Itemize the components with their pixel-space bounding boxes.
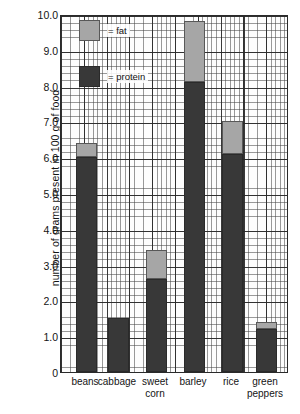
- y-axis-tick-label: 8.0: [18, 81, 58, 93]
- y-axis-tick-label: 3.0: [18, 260, 58, 272]
- legend-label-protein: = protein: [107, 70, 148, 83]
- y-axis-tick-label: 5.0: [18, 188, 58, 200]
- x-axis-tick-labels: beanscabbagesweet cornbarleyricegreen pe…: [60, 376, 288, 414]
- bar-segment-protein: [222, 154, 243, 372]
- bar-segment-fat: [146, 250, 167, 279]
- x-axis-tick-label: barley: [179, 376, 206, 388]
- bar-segment-protein: [146, 279, 167, 372]
- bar-segment-fat: [76, 143, 97, 157]
- bar-group: [146, 250, 167, 372]
- y-axis-tick-label: 9.0: [18, 45, 58, 57]
- legend-entry-fat: = fat: [79, 20, 130, 41]
- bar-group: [184, 21, 205, 372]
- bar-segment-protein: [76, 157, 97, 372]
- bar-group: [76, 143, 97, 372]
- bar-segment-protein: [256, 329, 277, 372]
- y-axis-tick-label: 7.0: [18, 116, 58, 128]
- legend-label-fat: = fat: [107, 24, 130, 37]
- y-axis-tick-label: 4.0: [18, 224, 58, 236]
- bar-group: [256, 322, 277, 372]
- y-axis-tick-label: 1.0: [18, 331, 58, 343]
- bar-chart-figure: number of grams present in 100 g of food…: [0, 0, 300, 414]
- plot-area: = fat = protein: [60, 15, 288, 373]
- x-axis-tick-label: green peppers: [247, 376, 283, 400]
- bar-group: [108, 318, 129, 372]
- bar-segment-protein: [184, 82, 205, 372]
- bar-segment-protein: [108, 318, 129, 372]
- bar-segment-fat: [256, 322, 277, 329]
- bar-segment-fat: [184, 21, 205, 82]
- bar-group: [222, 121, 243, 372]
- y-axis-tick-label: 6.0: [18, 152, 58, 164]
- y-axis-tick-label: 0: [18, 367, 58, 379]
- legend-entry-protein: = protein: [79, 66, 148, 87]
- y-axis-tick-label: 2.0: [18, 295, 58, 307]
- x-axis-tick-label: cabbage: [98, 376, 136, 388]
- bar-segment-fat: [222, 121, 243, 153]
- x-axis-tick-label: sweet corn: [142, 376, 168, 400]
- legend-swatch-protein-icon: [79, 66, 100, 87]
- legend-swatch-fat-icon: [79, 20, 100, 41]
- y-axis-tick-labels: 01.02.03.04.05.06.07.08.09.010.0: [18, 0, 58, 414]
- x-axis-tick-label: beans: [71, 376, 98, 388]
- x-axis-tick-label: rice: [223, 376, 239, 388]
- y-axis-tick-label: 10.0: [18, 9, 58, 21]
